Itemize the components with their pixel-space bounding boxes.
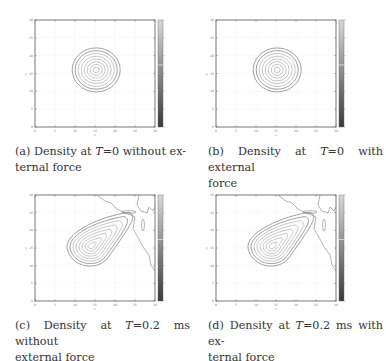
density-contours [253, 48, 301, 92]
caption-line-1: (a) Density at T=0 without ex- [15, 144, 190, 160]
caption-suffix: =0 without ex- [103, 145, 186, 158]
x-tick-label: 30 [153, 129, 157, 133]
y-tick-label: 15 [210, 246, 214, 250]
y-tick-label: 20 [210, 228, 214, 232]
caption-variable: T [125, 319, 132, 332]
x-tick-label: 20 [113, 129, 117, 133]
coastline [278, 195, 336, 271]
y-tick-label: 15 [210, 72, 214, 76]
y-tick-label: 10 [210, 264, 214, 268]
x-tick-label: 30 [334, 129, 338, 133]
caption-a: (a) Density at T=0 without ex-ternal for… [15, 144, 190, 176]
density-contours [248, 212, 314, 266]
y-tick-label: 10 [29, 264, 33, 268]
caption-prefix: (a) Density at [15, 145, 95, 158]
y-tick-label: 0 [31, 125, 33, 129]
y-axis-label: y [25, 72, 27, 76]
caption-line-2: ternal force [208, 350, 383, 361]
x-tick-label: 25 [314, 303, 318, 307]
grid-lines [35, 20, 155, 127]
grid-lines [35, 195, 155, 301]
caption-variable: T [320, 145, 327, 158]
x-tick-label: 10 [254, 303, 258, 307]
x-tick-label: 0 [34, 303, 36, 307]
subfigure-c: 051015202530051015202530xy(c) Density at… [0, 180, 193, 360]
colorbar [339, 20, 344, 127]
y-tick-label: 30 [210, 18, 214, 22]
y-tick-label: 30 [210, 193, 214, 197]
colorbar [158, 20, 163, 127]
x-tick-label: 5 [235, 303, 237, 307]
x-tick-label: 25 [314, 129, 318, 133]
caption-line-1: (b) Density at T=0 with external [208, 144, 383, 176]
y-tick-label: 25 [210, 36, 214, 40]
x-tick-label: 0 [34, 129, 36, 133]
x-tick-label: 10 [73, 303, 77, 307]
x-tick-label: 30 [334, 303, 338, 307]
y-tick-label: 20 [29, 54, 33, 58]
subfigure-d: 051015202530051015202530xy(d) Density at… [193, 180, 386, 360]
y-tick-label: 15 [29, 72, 33, 76]
y-tick-label: 10 [210, 89, 214, 93]
y-tick-label: 25 [29, 36, 33, 40]
x-tick-label: 20 [294, 129, 298, 133]
x-tick-label: 0 [215, 303, 217, 307]
x-tick-label: 5 [54, 129, 56, 133]
x-axis-label: x [275, 307, 277, 311]
density-contours [72, 48, 120, 92]
x-tick-label: 20 [113, 303, 117, 307]
y-tick-label: 10 [29, 89, 33, 93]
y-tick-label: 5 [212, 107, 214, 111]
y-tick-label: 0 [31, 299, 33, 303]
x-tick-label: 5 [54, 303, 56, 307]
grid-lines [216, 195, 336, 301]
y-axis-label: y [206, 246, 208, 250]
y-axis-label: y [25, 246, 27, 250]
subfigure-b: 051015202530051015202530xy(b) Density at… [193, 0, 386, 180]
y-tick-label: 25 [210, 211, 214, 215]
y-tick-label: 20 [29, 228, 33, 232]
x-axis-label: x [94, 307, 96, 311]
caption-line-2: ternal force [15, 160, 190, 176]
x-tick-label: 25 [133, 129, 137, 133]
x-axis-label: x [275, 133, 277, 137]
y-tick-label: 30 [29, 18, 33, 22]
x-tick-label: 30 [153, 303, 157, 307]
y-tick-label: 5 [31, 281, 33, 285]
coastline [97, 195, 155, 271]
x-axis-label: x [94, 133, 96, 137]
colorbar [158, 195, 163, 301]
density-contours [67, 212, 133, 266]
y-tick-label: 0 [212, 299, 214, 303]
grid-lines [216, 20, 336, 127]
caption-c: (c) Density at T=0.2 ms withoutexternal … [15, 318, 190, 361]
y-axis-label: y [206, 72, 208, 76]
caption-line-1: (d) Density at T=0.2 ms with ex- [208, 318, 383, 350]
caption-prefix: (d) Density at [208, 319, 296, 332]
caption-variable: T [296, 319, 303, 332]
caption-line-2: external force [15, 350, 190, 361]
caption-prefix: (c) Density at [15, 319, 125, 332]
x-tick-label: 5 [235, 129, 237, 133]
caption-variable: T [95, 145, 102, 158]
x-tick-label: 20 [294, 303, 298, 307]
x-tick-label: 25 [133, 303, 137, 307]
x-tick-label: 10 [73, 129, 77, 133]
x-tick-label: 10 [254, 129, 258, 133]
caption-line-1: (c) Density at T=0.2 ms without [15, 318, 190, 350]
y-tick-label: 20 [210, 54, 214, 58]
caption-d: (d) Density at T=0.2 ms with ex-ternal f… [208, 318, 383, 361]
caption-prefix: (b) Density at [208, 145, 320, 158]
colorbar [339, 195, 344, 301]
y-tick-label: 30 [29, 193, 33, 197]
y-tick-label: 0 [212, 125, 214, 129]
y-tick-label: 15 [29, 246, 33, 250]
y-tick-label: 5 [212, 281, 214, 285]
subfigure-a: 051015202530051015202530xy(a) Density at… [0, 0, 193, 180]
y-tick-label: 25 [29, 211, 33, 215]
y-tick-label: 5 [31, 107, 33, 111]
x-tick-label: 0 [215, 129, 217, 133]
